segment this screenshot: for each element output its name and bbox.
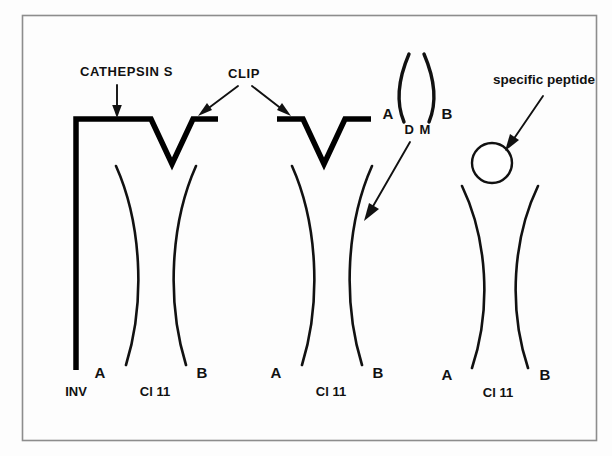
complex-3: A B Cl 11	[442, 143, 551, 400]
dm-arrow-shaft	[372, 142, 410, 208]
invariant-chain-shape	[76, 119, 218, 370]
complex-2-alpha-helix	[292, 166, 314, 365]
complex-3-beta-label: B	[540, 366, 551, 383]
complex-2: A B Cl 11	[271, 119, 384, 399]
specific-peptide-arrow-head	[505, 134, 519, 151]
cathepsin-s-label: CATHEPSIN S	[80, 64, 173, 79]
specific-peptide-arrow-shaft	[513, 96, 543, 140]
clip-label: CLIP	[228, 66, 260, 81]
clip-arrow-left-shaft	[206, 86, 238, 110]
figure-root: A B Cl 11 INV CATHEPSIN S A B Cl 11 CLIP	[0, 0, 612, 456]
specific-peptide-annotation: specific peptide	[493, 72, 596, 151]
clip-annotation: CLIP	[198, 66, 291, 116]
complex-1-alpha-helix	[116, 166, 138, 365]
dm-beta-label: B	[442, 105, 453, 122]
dm-alpha-label: A	[383, 105, 394, 122]
specific-peptide-label: specific peptide	[493, 72, 596, 87]
complex-1-alpha-label: A	[95, 364, 106, 381]
cathepsin-s-annotation: CATHEPSIN S	[80, 64, 173, 118]
complex-3-alpha-label: A	[442, 366, 453, 383]
mhc-class-ii-loading-diagram: A B Cl 11 INV CATHEPSIN S A B Cl 11 CLIP	[0, 0, 612, 456]
complex-2-beta-label: B	[373, 364, 384, 381]
complex-1-beta-helix	[174, 166, 196, 365]
complex-3-class-label: Cl 11	[483, 385, 513, 400]
complex-1-beta-label: B	[197, 364, 208, 381]
clip-arrow-right-shaft	[252, 86, 283, 110]
clip-arrow-left-head	[198, 103, 212, 116]
invariant-chain-label: INV	[65, 384, 87, 399]
complex-2-beta-helix	[350, 166, 372, 365]
dm-name-label: D M	[405, 122, 432, 137]
complex-3-alpha-helix	[462, 186, 484, 368]
complex-3-beta-helix	[516, 186, 538, 368]
dm-beta-curve	[424, 54, 434, 122]
clip-arrow-right-head	[277, 103, 291, 116]
complex-1: A B Cl 11 INV	[65, 119, 218, 399]
complex-2-alpha-label: A	[271, 364, 282, 381]
cathepsin-s-arrow-head	[112, 105, 122, 118]
clip-peptide-shape	[277, 119, 371, 164]
dm-arrow-head	[364, 203, 379, 221]
complex-2-class-label: Cl 11	[316, 384, 346, 399]
dm-molecule: A B D M	[364, 54, 453, 221]
dm-alpha-curve	[399, 54, 409, 122]
complex-1-class-label: Cl 11	[140, 384, 170, 399]
